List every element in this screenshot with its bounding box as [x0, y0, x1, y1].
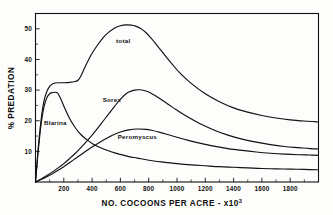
series-label-peromyscus: Peromyscus — [118, 133, 158, 140]
x-tick-label: 800 — [143, 185, 155, 192]
curve-sorex — [36, 90, 319, 182]
y-axis-title: % PREDATION — [7, 67, 16, 130]
x-tick-label: 400 — [86, 185, 98, 192]
x-tick-label: 200 — [58, 185, 70, 192]
y-tick-label: 50 — [24, 25, 32, 32]
x-tick-label: 1600 — [254, 185, 269, 192]
x-tick-label: 1800 — [283, 185, 298, 192]
curve-total — [36, 25, 319, 182]
data-curves — [36, 25, 319, 182]
y-tick-label: 40 — [24, 56, 32, 63]
x-tick-label: 1200 — [198, 185, 213, 192]
series-label-blarina: Blarina — [44, 119, 67, 126]
series-label-sorex: Sorex — [103, 96, 122, 103]
x-tick-label: 1400 — [226, 185, 241, 192]
x-axis-ticks — [50, 178, 305, 182]
x-tick-label: 600 — [115, 185, 127, 192]
curve-peromyscus — [36, 129, 319, 182]
x-axis-tick-labels: 20040060080010001200140016001800 — [58, 185, 298, 192]
y-tick-label: 10 — [24, 148, 32, 155]
x-axis-title-text: NO. COCOONS PER ACRE - x10 — [102, 199, 239, 208]
y-tick-label: 30 — [24, 86, 32, 93]
series-label-total: total — [116, 37, 130, 44]
y-axis-tick-labels: 1020304050 — [24, 25, 32, 155]
predation-chart: 1020304050 20040060080010001200140016001… — [0, 0, 333, 215]
x-tick-label: 1000 — [169, 185, 184, 192]
x-axis-title: NO. COCOONS PER ACRE - x103 — [102, 198, 243, 208]
y-tick-label: 20 — [24, 117, 32, 124]
figure-container: 1020304050 20040060080010001200140016001… — [0, 0, 333, 215]
x-axis-title-exponent: 3 — [239, 198, 243, 204]
